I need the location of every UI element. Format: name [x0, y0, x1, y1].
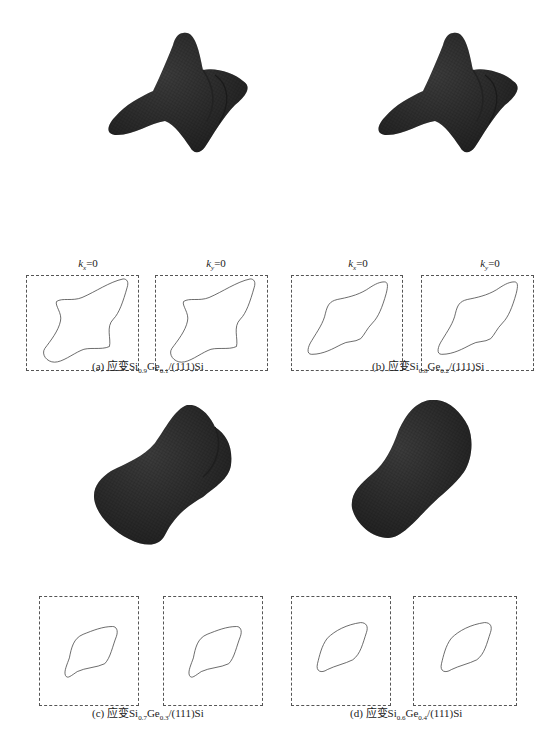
caption-a: (a) 应变Si0.9Ge0.1/(111)Si [92, 357, 204, 375]
contour-plot-kx-d [291, 596, 391, 706]
slice-label-kx-b: kx=0 [318, 257, 398, 272]
slice-label-kx-a: kx=0 [48, 257, 128, 272]
surface-3d-plot-a [95, 25, 285, 190]
contour-plot-ky-c [163, 596, 263, 706]
caption-c: (c) 应变Si0.7Ge0.3/(111)Si [92, 704, 204, 722]
contour-plot-kx-c [39, 596, 139, 706]
caption-d: (d) 应变Si0.6Ge0.4/(111)Si [350, 704, 462, 722]
slice-label-ky-a: ky=0 [176, 257, 256, 272]
surface-3d-plot-b [365, 25, 555, 190]
caption-b: (b) 应变Si0.8Ge0.2/(111)Si [372, 357, 484, 375]
slice-label-ky-b: ky=0 [450, 257, 530, 272]
surface-3d-plot-d [350, 400, 530, 560]
surface-3d-plot-c [85, 405, 265, 560]
contour-plot-ky-d [413, 596, 517, 706]
